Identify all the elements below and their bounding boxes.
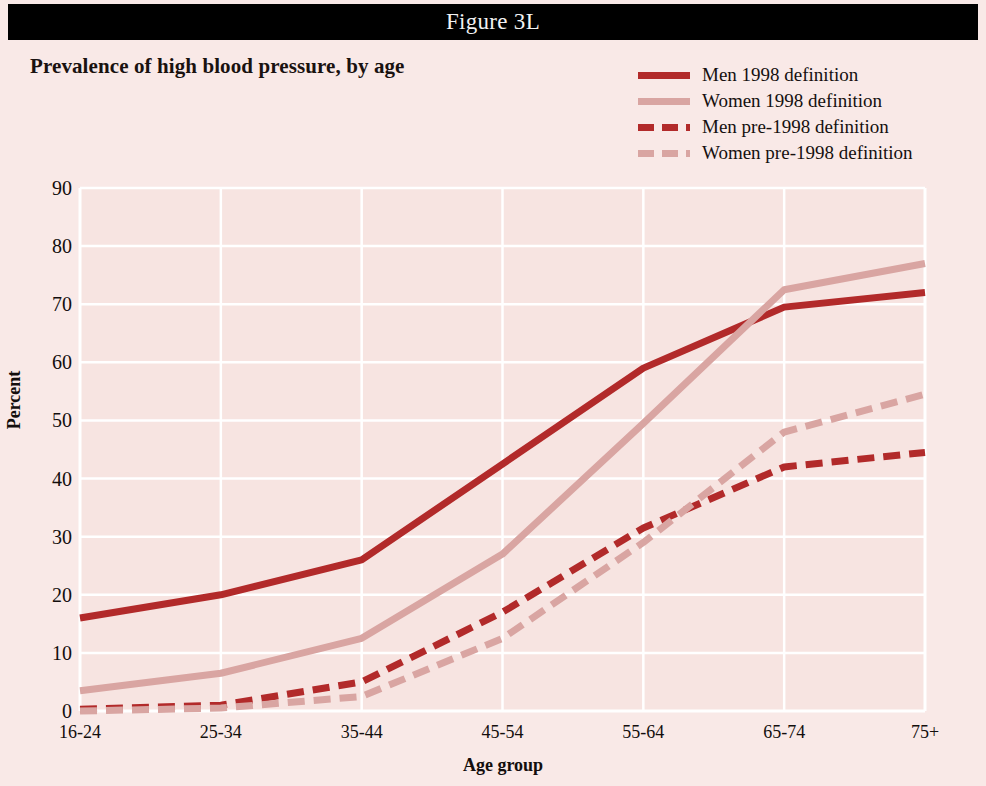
x-tick-label: 65-74 [763, 722, 805, 743]
y-tick-label: 50 [32, 409, 72, 432]
chart-canvas [0, 0, 986, 786]
x-axis-label: Age group [463, 755, 543, 776]
x-tick-label: 75+ [911, 722, 939, 743]
y-tick-label: 80 [32, 235, 72, 258]
y-tick-label: 20 [32, 583, 72, 606]
y-axis-ticks: 0102030405060708090 [28, 0, 72, 786]
y-tick-label: 40 [32, 467, 72, 490]
y-tick-label: 90 [32, 177, 72, 200]
y-tick-label: 0 [32, 700, 72, 723]
x-tick-label: 35-44 [341, 722, 383, 743]
x-tick-label: 16-24 [59, 722, 101, 743]
x-tick-label: 55-64 [622, 722, 664, 743]
x-tick-label: 45-54 [482, 722, 524, 743]
y-tick-label: 60 [32, 351, 72, 374]
y-tick-label: 30 [32, 525, 72, 548]
figure-page: Figure 3L Prevalence of high blood press… [0, 0, 986, 786]
y-tick-label: 10 [32, 641, 72, 664]
plot-area: 0102030405060708090 16-2425-3435-4445-54… [0, 0, 986, 786]
x-tick-label: 25-34 [200, 722, 242, 743]
y-axis-label: Percent [4, 371, 25, 430]
y-tick-label: 70 [32, 293, 72, 316]
